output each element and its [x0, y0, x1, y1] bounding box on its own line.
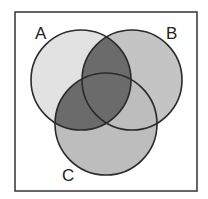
set-c-label: C — [62, 167, 74, 184]
set-a-label: A — [35, 25, 46, 42]
set-b-label: B — [166, 25, 177, 42]
